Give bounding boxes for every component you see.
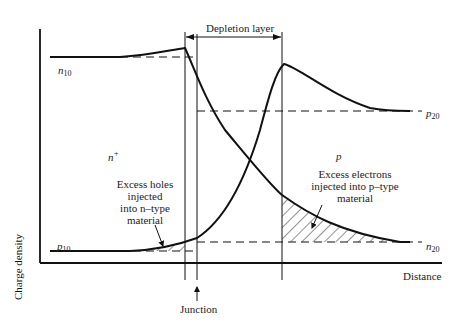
p20-label: p20 bbox=[426, 107, 440, 123]
holes-line-1: Excess holes bbox=[110, 178, 180, 190]
electrons-line-1: Excess electrons bbox=[305, 168, 405, 180]
n20-subscript: 20 bbox=[432, 245, 440, 254]
holes-pointer bbox=[155, 225, 163, 246]
pn-junction-diagram bbox=[0, 0, 467, 324]
excess-holes-annotation: Excess holes injected into n–type materi… bbox=[110, 178, 180, 226]
electrons-line-2: injected into p–type bbox=[305, 180, 405, 192]
y-axis-label: Charge density bbox=[12, 234, 24, 300]
excess-electrons-annotation: Excess electrons injected into p–type ma… bbox=[305, 168, 405, 204]
holes-line-3: into n–type bbox=[110, 202, 180, 214]
p-region-label: p bbox=[336, 150, 342, 162]
x-axis-label: Distance bbox=[403, 270, 441, 282]
hole-density-curve bbox=[50, 64, 410, 251]
n-region-superscript: + bbox=[114, 149, 119, 158]
holes-line-2: injected bbox=[110, 190, 180, 202]
depletion-layer-label: Depletion layer bbox=[206, 22, 274, 34]
p20-subscript: 20 bbox=[432, 112, 440, 121]
holes-line-4: material bbox=[110, 214, 180, 226]
p10-subscript: 10 bbox=[63, 245, 71, 254]
n-region-label: n+ bbox=[108, 148, 119, 163]
electron-density-curve bbox=[50, 48, 410, 242]
n20-label: n20 bbox=[426, 240, 440, 256]
n10-subscript: 10 bbox=[64, 69, 72, 78]
axes bbox=[40, 29, 442, 263]
electrons-line-3: material bbox=[305, 192, 405, 204]
p10-label: p10 bbox=[57, 240, 71, 256]
depletion-boundaries bbox=[185, 32, 282, 280]
n10-label: n10 bbox=[58, 64, 72, 80]
junction-label: Junction bbox=[180, 303, 217, 315]
